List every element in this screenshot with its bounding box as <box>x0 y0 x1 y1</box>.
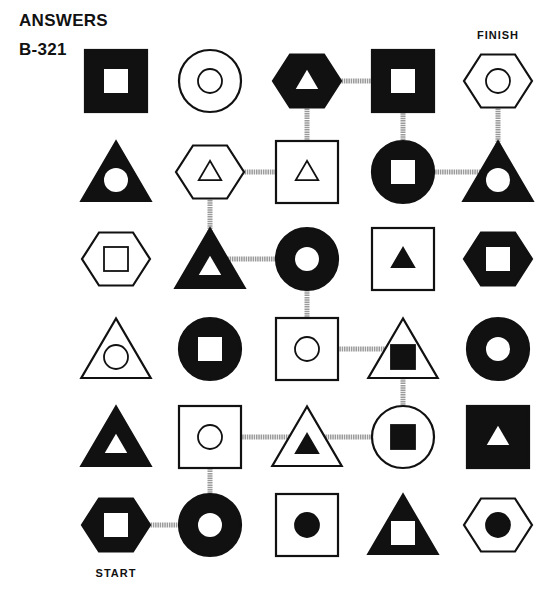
maze-board <box>0 0 559 593</box>
cell-r1-c0[interactable] <box>81 141 150 201</box>
black-square-icon <box>391 345 415 369</box>
white-square-icon <box>391 160 415 184</box>
cell-r3-c1[interactable] <box>179 318 241 380</box>
cell-r1-c1[interactable] <box>176 146 244 199</box>
black-circle-icon <box>486 513 510 537</box>
cell-r5-c4[interactable] <box>464 499 532 552</box>
white-square-icon <box>104 513 128 537</box>
cell-r5-c2[interactable] <box>276 494 338 556</box>
cell-r2-c3[interactable] <box>372 228 434 290</box>
white-circle-icon <box>295 247 319 271</box>
cell-r3-c4[interactable] <box>467 318 529 380</box>
cell-r5-c1[interactable] <box>179 494 241 556</box>
cell-r1-c4[interactable] <box>463 141 532 201</box>
cell-r5-c0[interactable] <box>82 499 150 552</box>
cell-r2-c2[interactable] <box>276 228 338 290</box>
white-square-icon <box>104 247 128 271</box>
white-circle-icon <box>486 69 510 93</box>
cell-r1-c2[interactable] <box>276 141 338 203</box>
white-circle-icon <box>486 168 510 192</box>
white-square-icon <box>391 69 415 93</box>
cell-r2-c0[interactable] <box>82 233 150 286</box>
cell-r0-c4[interactable] <box>464 55 532 108</box>
white-circle-icon <box>295 337 319 361</box>
white-circle-icon <box>198 513 222 537</box>
white-square-icon <box>486 247 510 271</box>
cell-r4-c3[interactable] <box>372 406 434 468</box>
cell-r1-c3[interactable] <box>372 141 434 203</box>
finish-label: FINISH <box>477 29 519 41</box>
white-circle-icon <box>104 168 128 192</box>
cell-r3-c2[interactable] <box>276 318 338 380</box>
cell-r0-c2[interactable] <box>273 55 341 108</box>
white-square-icon <box>391 521 415 545</box>
black-circle-icon <box>295 513 319 537</box>
white-circle-icon <box>198 69 222 93</box>
white-circle-icon <box>104 345 128 369</box>
black-square-icon <box>391 425 415 449</box>
cell-r4-c0[interactable] <box>81 406 150 466</box>
cell-r0-c0[interactable] <box>85 50 147 112</box>
cell-r2-c4[interactable] <box>464 233 532 286</box>
cell-r4-c1[interactable] <box>179 406 241 468</box>
white-circle-icon <box>486 337 510 361</box>
cell-r4-c4[interactable] <box>467 406 529 468</box>
cell-r5-c3[interactable] <box>368 494 437 554</box>
cell-r0-c3[interactable] <box>372 50 434 112</box>
white-circle-icon <box>198 425 222 449</box>
white-square-icon <box>198 337 222 361</box>
cell-r3-c0[interactable] <box>81 318 150 378</box>
white-square-icon <box>104 69 128 93</box>
start-label: START <box>96 567 137 579</box>
cell-r0-c1[interactable] <box>179 50 241 112</box>
